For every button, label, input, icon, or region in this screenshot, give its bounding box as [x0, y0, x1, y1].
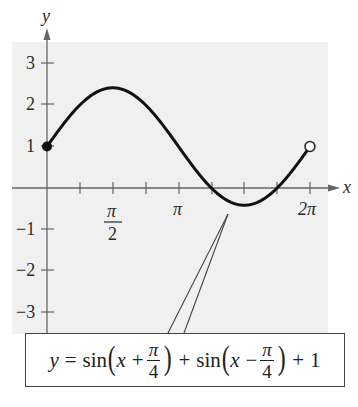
eq-fraction-2: π 4	[260, 340, 274, 381]
closed-endpoint-marker	[42, 142, 52, 152]
eq-equals: =	[65, 348, 77, 373]
eq-fraction-2-denominator: 4	[262, 361, 272, 381]
eq-plus-mid: +	[178, 348, 190, 373]
eq-x-2: x	[230, 348, 239, 373]
eq-rparen-1: )	[164, 341, 172, 375]
eq-lparen-2: (	[222, 341, 230, 375]
eq-sin-2: sin	[196, 348, 221, 373]
y-tick-neg3: −3	[16, 302, 35, 322]
y-axis-label: y	[40, 6, 50, 26]
eq-plus-end: +	[292, 348, 304, 373]
x-axis-arrow-icon	[328, 185, 340, 192]
x-tick-2pi: 2π	[298, 199, 317, 219]
eq-plus-1: +	[132, 348, 144, 373]
x-tick-pi-over-2-denominator: 2	[108, 224, 117, 244]
eq-lparen-1: (	[108, 341, 116, 375]
eq-fraction-2-numerator: π	[260, 340, 274, 361]
eq-fraction-1-numerator: π	[147, 340, 161, 361]
eq-sin-1: sin	[83, 348, 108, 373]
equation-callout-box: y = sin ( x + π 4 ) + sin ( x − π 4 ) + …	[25, 333, 345, 387]
eq-fraction-1-denominator: 4	[149, 361, 159, 381]
open-endpoint-marker	[305, 142, 315, 152]
eq-minus: −	[246, 348, 258, 373]
eq-rparen-2: )	[278, 341, 286, 375]
eq-fraction-1: π 4	[147, 340, 161, 381]
y-tick-2: 2	[26, 94, 35, 114]
eq-x-1: x	[116, 348, 125, 373]
eq-y: y	[49, 348, 58, 373]
x-tick-pi-over-2-numerator: π	[107, 201, 117, 221]
y-tick-1: 1	[26, 136, 35, 156]
y-tick-neg2: −2	[16, 260, 35, 280]
x-tick-pi: π	[173, 199, 183, 219]
eq-one: 1	[310, 348, 321, 373]
x-axis-label: x	[342, 177, 351, 197]
y-axis-arrow-icon	[44, 28, 51, 40]
y-tick-3: 3	[26, 53, 35, 73]
y-tick-neg1: −1	[16, 219, 35, 239]
